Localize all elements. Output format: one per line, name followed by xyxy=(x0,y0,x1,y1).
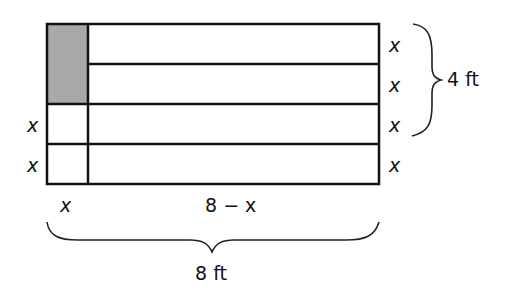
left-label-2: x xyxy=(26,154,39,176)
height-brace-icon xyxy=(412,24,441,136)
bottom-label-x: x xyxy=(59,194,72,216)
width-brace-label: 8 ft xyxy=(195,262,227,284)
right-label-3: x xyxy=(388,114,401,136)
garden-diagram: x x x x x x x 8 − x 4 ft 8 ft xyxy=(0,0,516,300)
right-label-4: x xyxy=(388,154,401,176)
width-brace-icon xyxy=(47,222,379,252)
shaded-region xyxy=(47,24,88,104)
right-label-1: x xyxy=(388,34,401,56)
left-label-1: x xyxy=(26,114,39,136)
bottom-label-8-minus-x: 8 − x xyxy=(205,194,256,216)
height-brace-label: 4 ft xyxy=(447,68,479,90)
right-label-2: x xyxy=(388,74,401,96)
